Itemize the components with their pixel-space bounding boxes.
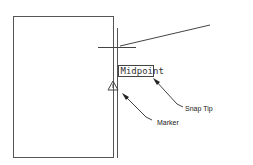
marker-leader — [122, 93, 152, 120]
snap-tip-leader — [153, 78, 183, 107]
snap-tip-text: Midpoint — [121, 66, 164, 76]
snap-tip-label: Snap Tip — [185, 105, 213, 113]
rubber-band-line — [120, 25, 210, 46]
autosnap-diagram: Midpoint Snap Tip Marker — [0, 0, 253, 165]
marker-label: Marker — [157, 119, 179, 126]
rectangle-object — [14, 17, 114, 158]
snap-tip: Midpoint — [119, 66, 164, 77]
